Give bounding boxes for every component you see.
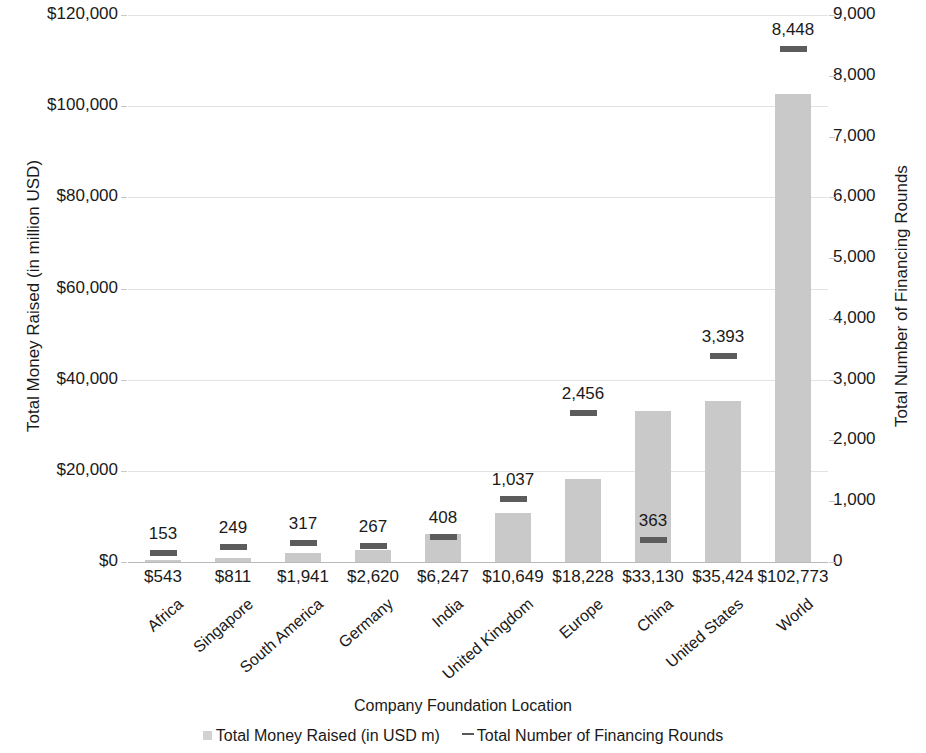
- legend-label: Total Money Raised (in USD m): [216, 727, 440, 745]
- gridline: [128, 106, 828, 107]
- y-axis-left-tickmark: [121, 471, 127, 472]
- y-axis-right-tickmark: [829, 319, 835, 320]
- gridline: [128, 15, 828, 16]
- y-axis-left-tick-label: $100,000: [8, 95, 118, 115]
- financing-rounds-marker: [710, 353, 737, 359]
- bar: [355, 550, 391, 562]
- y-axis-left-tickmark: [121, 289, 127, 290]
- financing-rounds-value-label: 2,456: [523, 384, 643, 404]
- legend-dash-icon: [462, 733, 474, 735]
- axis-baseline: [128, 562, 828, 563]
- legend-square-icon: [203, 731, 212, 740]
- x-axis-category-label: Germany: [335, 595, 396, 652]
- financing-rounds-value-label: 8,448: [733, 20, 853, 40]
- y-axis-right-tickmark: [829, 258, 835, 259]
- y-axis-left-tickmark: [121, 15, 127, 16]
- bar: [215, 558, 251, 562]
- financing-rounds-marker: [570, 410, 597, 416]
- legend-item[interactable]: Total Money Raised (in USD m): [203, 726, 440, 745]
- financing-rounds-marker: [430, 534, 457, 540]
- y-axis-right-tick-label: 3,000: [833, 369, 907, 389]
- financing-rounds-value-label: 1,037: [453, 470, 573, 490]
- financing-rounds-marker: [290, 540, 317, 546]
- x-axis-title: Company Foundation Location: [0, 697, 926, 715]
- y-axis-left-tickmark: [121, 562, 127, 563]
- x-axis-category-label: Singapore: [190, 595, 257, 656]
- financing-rounds-value-label: 408: [383, 508, 503, 528]
- y-axis-right-tick-label: 8,000: [833, 65, 907, 85]
- financing-rounds-marker: [640, 537, 667, 543]
- y-axis-left-ticks: $0$20,000$40,000$60,000$80,000$100,000$1…: [0, 0, 118, 600]
- bar: [705, 401, 741, 562]
- chart-legend: Total Money Raised (in USD m)Total Numbe…: [0, 726, 926, 745]
- gridline: [128, 380, 828, 381]
- y-axis-left-tick-label: $120,000: [8, 4, 118, 24]
- y-axis-right-tickmark: [829, 15, 835, 16]
- financing-rounds-value-label: 3,393: [663, 327, 783, 347]
- bar-chart: Total Money Raised (in million USD) Tota…: [0, 0, 926, 753]
- y-axis-right-tickmark: [829, 197, 835, 198]
- y-axis-left-tickmark: [121, 197, 127, 198]
- financing-rounds-marker: [360, 543, 387, 549]
- financing-rounds-marker: [780, 46, 807, 52]
- y-axis-left-tickmark: [121, 380, 127, 381]
- legend-label: Total Number of Financing Rounds: [477, 727, 723, 745]
- x-axis-category-label: World: [774, 595, 817, 636]
- x-axis-category-label: India: [429, 595, 467, 631]
- bar: [495, 513, 531, 562]
- gridline: [128, 197, 828, 198]
- y-axis-left-tick-label: $40,000: [8, 369, 118, 389]
- money-raised-value-label: $102,773: [733, 567, 853, 587]
- financing-rounds-marker: [150, 550, 177, 556]
- y-axis-right-tick-label: 5,000: [833, 247, 907, 267]
- financing-rounds-marker: [500, 496, 527, 502]
- plot-area: 1532493172674081,0372,4563633,3938,448: [128, 10, 828, 567]
- legend-item[interactable]: Total Number of Financing Rounds: [462, 726, 723, 745]
- financing-rounds-value-label: 363: [593, 511, 713, 531]
- bar: [775, 94, 811, 562]
- y-axis-right-tick-label: 4,000: [833, 308, 907, 328]
- y-axis-left-tick-label: $20,000: [8, 460, 118, 480]
- y-axis-right-tickmark: [829, 562, 835, 563]
- x-axis-category-label: Africa: [144, 595, 187, 635]
- y-axis-right-tickmark: [829, 501, 835, 502]
- gridline: [128, 289, 828, 290]
- y-axis-right-tickmark: [829, 137, 835, 138]
- x-axis-category-label: Europe: [556, 595, 607, 642]
- y-axis-right-tickmark: [829, 76, 835, 77]
- bar: [285, 553, 321, 562]
- bar: [145, 560, 181, 562]
- y-axis-right-tickmark: [829, 380, 835, 381]
- y-axis-right-tick-label: 2,000: [833, 429, 907, 449]
- y-axis-right-tick-label: 6,000: [833, 186, 907, 206]
- y-axis-right-ticks: 01,0002,0003,0004,0005,0006,0007,0008,00…: [833, 0, 913, 600]
- y-axis-right-tick-label: 1,000: [833, 490, 907, 510]
- y-axis-right-tickmark: [829, 440, 835, 441]
- y-axis-left-tick-label: $60,000: [8, 278, 118, 298]
- financing-rounds-marker: [220, 544, 247, 550]
- x-axis-category-labels: $543Africa$811Singapore$1,941South Ameri…: [0, 567, 926, 687]
- y-axis-left-tickmark: [121, 106, 127, 107]
- y-axis-left-tick-label: $80,000: [8, 186, 118, 206]
- x-axis-category-label: China: [633, 595, 676, 636]
- y-axis-right-tick-label: 7,000: [833, 126, 907, 146]
